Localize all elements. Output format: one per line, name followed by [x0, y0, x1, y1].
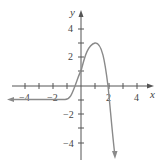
y-tick-label-4: 4 [68, 23, 73, 34]
down-arrow-icon [112, 151, 118, 159]
x-axis-label: x [149, 88, 155, 100]
x-tick-label-neg2: −2 [47, 92, 58, 103]
y-axis-label: y [69, 6, 75, 18]
left-arrow-icon [7, 97, 14, 102]
y-tick-label-neg4: −4 [63, 138, 74, 149]
y-tick-label-2: 2 [68, 51, 73, 62]
x-tick-label-4: 4 [134, 92, 139, 103]
function-graph: −4 −2 2 4 x 4 2 −2 −4 y [0, 0, 160, 166]
y-axis: 4 2 −2 −4 y [63, 6, 84, 160]
y-tick-label-neg2: −2 [63, 109, 74, 120]
y-axis-arrow-icon [79, 10, 84, 17]
x-tick-label-neg4: −4 [19, 92, 30, 103]
